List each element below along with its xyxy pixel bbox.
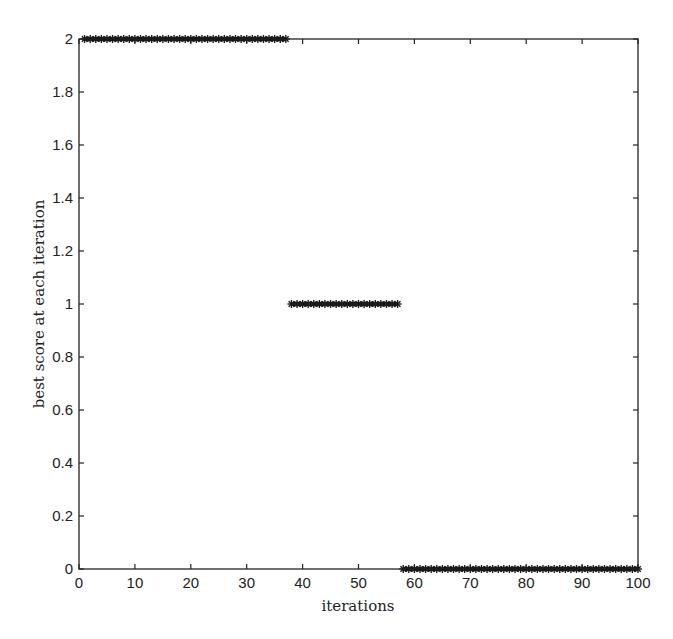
x-tick-label: 50 [350,574,367,591]
data-markers [81,35,642,573]
x-tick-label: 30 [238,574,255,591]
y-tick-label: 0.2 [52,507,73,524]
y-tick-label: 0 [65,560,73,577]
y-tick-label: 1 [65,295,73,312]
x-tick-label: 80 [518,574,535,591]
y-tick-label: 1.4 [52,189,73,206]
y-tick-label: 2 [65,30,73,47]
x-tick-label: 70 [462,574,479,591]
y-tick-label: 1.6 [52,136,73,153]
x-tick-label: 20 [182,574,199,591]
x-tick-label: 100 [625,574,650,591]
y-tick-label: 1.8 [52,83,73,100]
chart: 00.20.40.60.811.21.41.61.82 010203040506… [0,0,673,639]
x-tick-label: 0 [75,574,83,591]
y-tick-label: 0.4 [52,454,73,471]
x-axis-ticks: 0102030405060708090100 [75,39,651,591]
x-tick-label: 40 [294,574,311,591]
x-axis-label: iterations [321,597,394,615]
x-tick-label: 90 [574,574,591,591]
x-tick-label: 10 [127,574,144,591]
y-axis-label: best score at each iteration [30,199,48,408]
y-tick-label: 1.2 [52,242,73,259]
y-tick-label: 0.6 [52,401,73,418]
y-tick-label: 0.8 [52,348,73,365]
x-tick-label: 60 [406,574,423,591]
